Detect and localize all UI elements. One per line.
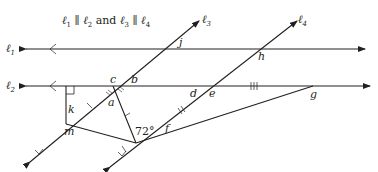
angle-a: a — [108, 97, 115, 108]
segment-vertex-g — [136, 86, 313, 143]
angle-b: b — [131, 74, 138, 85]
line-l3 — [30, 21, 199, 162]
segment-c-vertex — [113, 86, 136, 143]
angle-k: k — [68, 104, 75, 115]
angle-c: c — [110, 74, 116, 85]
diagram-title: ℓ1 ∥ ℓ2 and ℓ3 ∥ ℓ4 — [62, 15, 150, 29]
angle-m: m — [64, 126, 74, 137]
label-l3: ℓ3 — [202, 14, 211, 28]
right-angle-mark — [66, 86, 74, 94]
label-l2: ℓ2 — [6, 80, 15, 94]
angle-g: g — [310, 89, 317, 100]
angle-h: h — [258, 51, 265, 62]
line-l4 — [110, 21, 297, 167]
geometry-diagram: ℓ1 ∥ ℓ2 and ℓ3 ∥ ℓ4 ℓ1 ℓ2 ℓ3 ℓ4 j h c b … — [0, 0, 378, 172]
angle-f: f — [165, 123, 169, 134]
angle-72: 72° — [135, 126, 155, 137]
label-l1: ℓ1 — [6, 43, 15, 57]
angle-e: e — [209, 88, 216, 99]
diagram-lines — [0, 0, 378, 172]
segment-m-vertex — [66, 124, 136, 143]
angle-d: d — [190, 88, 197, 99]
label-l4: ℓ4 — [298, 14, 307, 28]
angle-j: j — [179, 37, 182, 48]
